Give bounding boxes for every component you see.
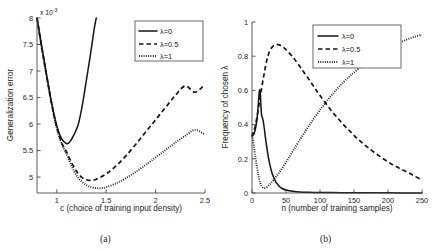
axis-tick-label: 5: [29, 173, 33, 182]
chart-panel-a: 11.522.555.566.577.58 x 10-3 c (choice o…: [0, 0, 215, 251]
figure-container: 11.522.555.566.577.58 x 10-3 c (choice o…: [0, 0, 435, 251]
subfigure-caption-b: (b): [320, 233, 331, 244]
axis-tick-label: 1: [244, 18, 248, 27]
chart-b-ylabel: Frequency of chosen λ: [221, 65, 230, 149]
axis-tick-label: 0.8: [238, 52, 248, 61]
chart-b-legend-label-0: λ=0: [342, 32, 354, 41]
chart-a-legend[interactable]: λ=0 λ=0.5 λ=1: [135, 21, 203, 61]
axis-tick-label: 0: [250, 196, 254, 205]
axis-tick-label: 1: [55, 196, 59, 205]
chart-b-svg: 05010015020025000.20.40.60.81 n (number …: [215, 0, 435, 251]
axis-tick-label: 0.6: [238, 86, 248, 95]
chart-b-xlabel: n (number of training samples): [281, 204, 392, 213]
chart-a-series-0: [37, 18, 96, 144]
chart-b-legend-label-1: λ=0.5: [342, 45, 360, 54]
axis-tick-label: 250: [416, 196, 428, 205]
chart-b-legend-label-2: λ=1: [342, 58, 354, 67]
chart-a-legend-label-1: λ=0.5: [160, 40, 178, 49]
axis-tick-label: 6.5: [23, 93, 33, 102]
chart-a-legend-label-2: λ=1: [160, 52, 172, 61]
axis-tick-label: 8: [29, 14, 33, 23]
axis-tick-label: 6: [29, 120, 33, 129]
chart-a-svg: 11.522.555.566.577.58 x 10-3 c (choice o…: [0, 0, 215, 251]
chart-a-y-multiplier: x 10-3: [40, 7, 58, 16]
axis-tick-label: 0.2: [238, 155, 248, 164]
chart-a-xlabel: c (choice of training input density): [60, 204, 182, 213]
axis-tick-label: 0: [244, 189, 248, 198]
chart-b-legend[interactable]: λ=0 λ=0.5 λ=1: [313, 25, 401, 68]
chart-a-ylabel: Generalization error: [6, 69, 15, 142]
chart-a-legend-label-0: λ=0: [160, 27, 172, 36]
axis-tick-label: 5.5: [23, 146, 33, 155]
axis-tick-label: 7: [29, 67, 33, 76]
axis-tick-label: 0.4: [238, 120, 248, 129]
axis-tick-label: 2.5: [200, 196, 210, 205]
chart-panel-b: 05010015020025000.20.40.60.81 n (number …: [215, 0, 435, 251]
chart-b-series-0: [252, 90, 422, 193]
axis-tick-label: 7.5: [23, 40, 33, 49]
subfigure-caption-a: (a): [100, 233, 111, 244]
